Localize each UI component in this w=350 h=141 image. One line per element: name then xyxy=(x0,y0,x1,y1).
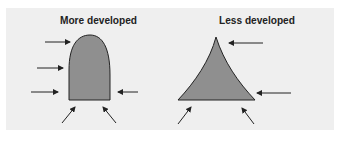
arrow-icon xyxy=(62,107,75,123)
pyramid-shape xyxy=(178,37,255,100)
arrow-icon xyxy=(103,107,116,123)
arrow-icon xyxy=(178,107,191,124)
arrow-icon xyxy=(242,108,254,124)
dome-shape xyxy=(69,35,110,100)
diagram-graphic xyxy=(0,0,350,141)
